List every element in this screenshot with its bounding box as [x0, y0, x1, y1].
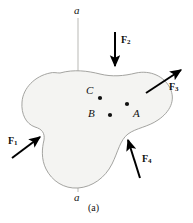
- point-A-dot: [125, 102, 129, 106]
- figure-container: a a C B A F1 F2 F3 F4 (a): [0, 0, 193, 223]
- force-label-4: F4: [142, 154, 152, 165]
- figure-canvas: [0, 0, 193, 223]
- force-label-1-subscript: 1: [14, 139, 18, 147]
- rigid-body-shape: [22, 71, 172, 188]
- force-label-3-subscript: 3: [175, 85, 179, 93]
- figure-caption: (a): [88, 203, 99, 213]
- point-label-A: A: [133, 108, 140, 119]
- force-label-2: F2: [121, 35, 131, 46]
- force-label-4-subscript: 4: [148, 157, 152, 165]
- force-label-1: F1: [8, 136, 18, 147]
- force-4-arrow: [128, 140, 140, 178]
- point-label-B: B: [88, 108, 95, 119]
- point-B-dot: [108, 113, 112, 117]
- force-label-3: F3: [169, 82, 179, 93]
- axis-label-top: a: [74, 5, 80, 16]
- point-label-C: C: [86, 85, 93, 96]
- force-label-2-subscript: 2: [127, 38, 131, 46]
- point-C-dot: [98, 96, 102, 100]
- axis-label-bottom: a: [74, 192, 80, 203]
